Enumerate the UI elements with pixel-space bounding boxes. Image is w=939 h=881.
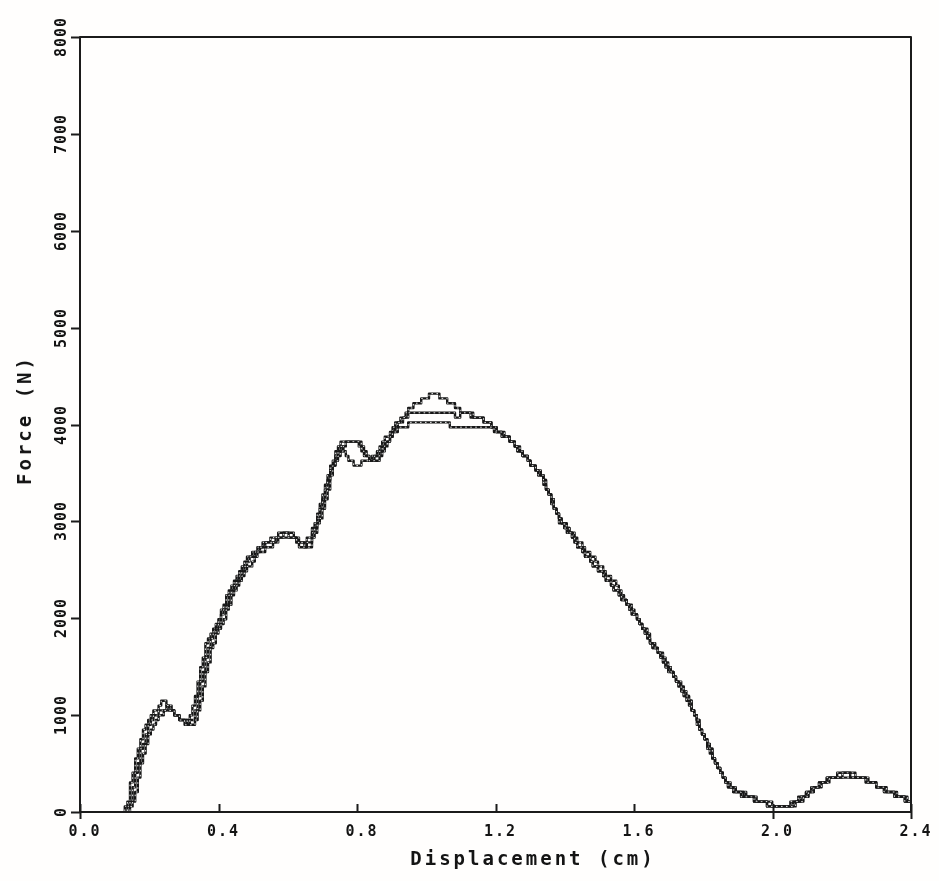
y-tick-label: 0 — [52, 807, 70, 817]
y-tick-label: 3000 — [52, 501, 70, 541]
x-tick-label: 2.4 — [899, 822, 932, 840]
x-tick-label: 2.0 — [761, 822, 794, 840]
y-tick-label: 1000 — [52, 695, 70, 735]
y-tick-label: 4000 — [52, 404, 70, 444]
y-tick-label: 6000 — [52, 211, 70, 251]
x-tick-label: 0.8 — [345, 822, 378, 840]
x-tick-label: 1.2 — [484, 822, 517, 840]
x-tick-label: 0.4 — [207, 822, 240, 840]
x-tick-label: 0.0 — [68, 822, 101, 840]
y-axis-title: Force (N) — [13, 355, 35, 485]
y-tick-label: 7000 — [52, 114, 70, 154]
x-tick-label: 1.6 — [622, 822, 655, 840]
chart-canvas — [0, 0, 939, 881]
force-displacement-chart: Force (N) Displacement (cm) 010002000300… — [0, 0, 939, 881]
x-axis-title: Displacement (cm) — [410, 847, 655, 869]
y-tick-label: 5000 — [52, 308, 70, 348]
y-tick-label: 8000 — [52, 17, 70, 57]
y-tick-label: 2000 — [52, 598, 70, 638]
